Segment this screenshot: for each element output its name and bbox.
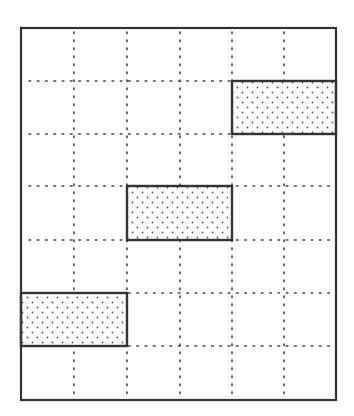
bottom-left-rectangle [21,293,127,346]
shaded-rectangles [21,81,336,346]
grid-diagram [0,0,354,416]
top-right-rectangle [232,81,336,134]
middle-rectangle [127,186,232,240]
